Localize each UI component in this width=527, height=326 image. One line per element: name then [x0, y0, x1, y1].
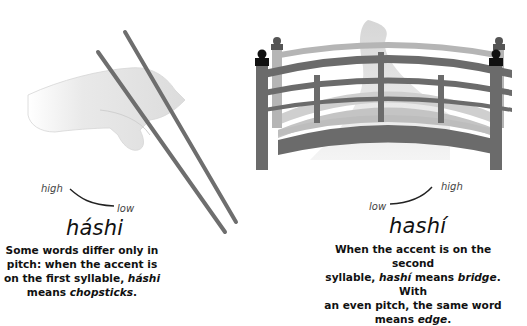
rising-pitch-curve-icon — [388, 184, 436, 208]
hand-icon — [28, 68, 185, 151]
desc-line: means chopsticks. — [0, 285, 164, 299]
desc-line: syllable, hashí means bridge. With — [315, 270, 511, 298]
pitch-low-label: low — [117, 203, 134, 214]
desc-line: on the first syllable, háshi — [0, 271, 164, 285]
word-hashi-bridge: hashí — [389, 214, 446, 238]
desc-line: means edge. — [315, 312, 511, 326]
desc-line: When the accent is on the second — [315, 242, 511, 270]
bridge-illustration — [250, 20, 527, 170]
desc-line: an even pitch, the same word — [315, 298, 511, 312]
falling-pitch-curve-icon — [68, 186, 116, 210]
right-description: When the accent is on the second syllabl… — [315, 242, 511, 326]
left-description: Some words differ only in pitch: when th… — [0, 243, 164, 299]
pitch-low-label: low — [369, 201, 386, 212]
pitch-high-label: high — [41, 183, 63, 194]
word-hashi-chopsticks: háshi — [66, 216, 123, 240]
pitch-high-label: high — [441, 181, 463, 192]
desc-line: Some words differ only in — [0, 243, 164, 257]
desc-line: pitch: when the accent is — [0, 257, 164, 271]
